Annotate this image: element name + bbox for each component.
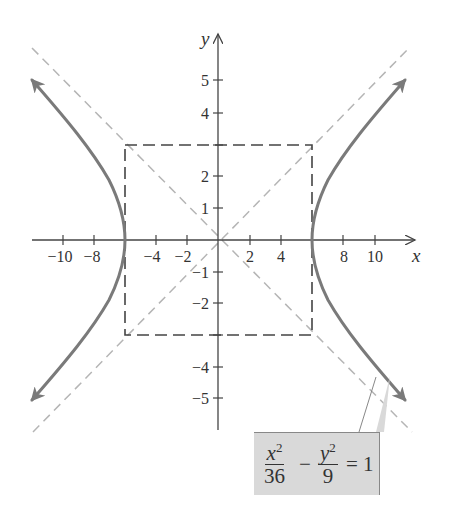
hyperbola-figure: −10 −8 −4 −2 2 4 8 10 5 4 2 1 −1 −2 −4 −… [0, 0, 450, 522]
minus-sign: − [299, 452, 311, 477]
callout-pointer [376, 376, 390, 432]
branch-left-upper [32, 80, 125, 240]
svg-text:10: 10 [367, 248, 383, 265]
svg-text:−2: −2 [174, 248, 191, 265]
svg-text:−5: −5 [192, 390, 209, 407]
svg-text:4: 4 [201, 105, 209, 122]
svg-text:−4: −4 [143, 248, 160, 265]
svg-text:5: 5 [201, 72, 209, 89]
fraction-x-squared-over-36: x2 36 [264, 441, 285, 487]
x-tick-labels: −10 −8 −4 −2 2 4 8 10 [47, 248, 383, 265]
callout-pointer-edge [359, 377, 376, 432]
branch-right-upper [312, 80, 405, 240]
equals-one: = 1 [346, 452, 374, 477]
svg-text:8: 8 [340, 248, 348, 265]
y-axis-label: y [199, 28, 210, 49]
branch-right-lower [312, 240, 405, 400]
fraction-y-squared-over-9: y2 9 [318, 441, 338, 487]
plot-area: −10 −8 −4 −2 2 4 8 10 5 4 2 1 −1 −2 −4 −… [0, 0, 450, 522]
equation-callout-box: x2 36 − y2 9 = 1 [254, 432, 380, 495]
x-axis-label: x [411, 245, 421, 266]
svg-text:4: 4 [277, 248, 285, 265]
svg-text:−10: −10 [47, 248, 72, 265]
svg-text:−1: −1 [192, 264, 209, 281]
svg-text:−2: −2 [192, 295, 209, 312]
svg-text:−4: −4 [192, 359, 209, 376]
svg-text:2: 2 [246, 248, 254, 265]
svg-text:2: 2 [201, 168, 209, 185]
svg-text:−8: −8 [83, 248, 100, 265]
branch-left-lower [32, 240, 125, 400]
svg-text:1: 1 [201, 200, 209, 217]
